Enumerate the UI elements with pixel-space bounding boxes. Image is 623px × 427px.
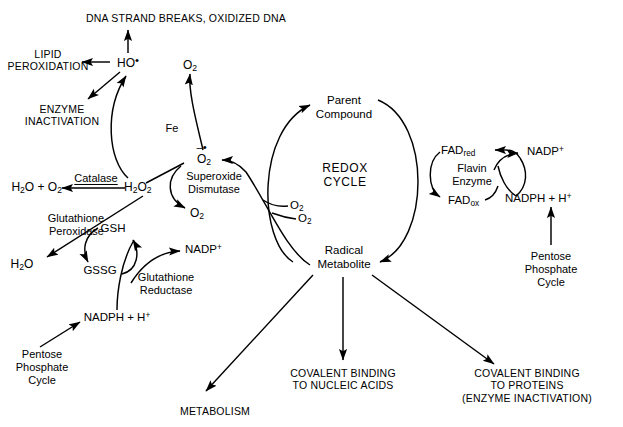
oxygen-radical-branch-formula: O: [298, 212, 307, 224]
dna-strand-breaks-label: DNA STRAND BREAKS, OXIDIZED DNA: [86, 12, 286, 24]
pentose-left-line2: Phosphate: [16, 361, 69, 373]
arrow-pentose-left-to-nadph: [40, 322, 80, 347]
fad-ox-text: FAD: [448, 194, 470, 206]
arrow-gssg-to-gsh: [122, 240, 137, 274]
hydrogen-peroxide-label: H2O2: [124, 180, 152, 196]
nadph-right-text: NADPH + H: [505, 192, 567, 204]
glutathione-peroxidase-line1: Glutathione: [48, 212, 104, 224]
oxygen-radical-branch-label: O2: [298, 212, 312, 227]
redox-cycle-line1: REDOX: [322, 161, 368, 175]
arrow-superoxide-to-oxygen: [190, 74, 203, 150]
glutathione-peroxidase-line2: Peroxidase: [49, 225, 104, 237]
arrow-peroxide-to-superoxide: [146, 163, 184, 183]
lipid-peroxidation-line2: PEROXIDATION: [8, 60, 89, 72]
nadph-h-left-label: NADPH + H+: [84, 311, 151, 325]
enzyme-inactivation-line1: ENZYME: [40, 103, 85, 115]
line-oxygen-branch-cycle: [263, 200, 288, 206]
fad-red-label: FADred: [441, 144, 475, 159]
oxygen-top-formula: O: [183, 58, 192, 72]
superoxide-species-label: –•O2: [197, 152, 211, 168]
catalase-label: Catalase: [74, 172, 117, 185]
gssg-label: GSSG: [83, 264, 116, 278]
covalent-binding-proteins-label: COVALENT BINDING TO PROTEINS (ENZYME INA…: [462, 367, 592, 404]
covalent-protein-line1: COVALENT BINDING: [474, 367, 580, 379]
parent-compound-line1: Parent: [327, 94, 361, 106]
parent-compound-line2: Compound: [316, 108, 372, 120]
radical-metabolite-label: Radical Metabolite: [317, 244, 370, 271]
water-label: H2O: [11, 257, 34, 273]
lipid-peroxidation-label: LIPID PEROXIDATION: [8, 48, 89, 73]
superoxide-dismutase-label: Superoxide Dismutase: [186, 170, 242, 196]
superoxide-dismutase-line2: Dismutase: [188, 183, 240, 195]
nadp-left-text: NADP: [185, 243, 217, 255]
redox-cycle-diagram: DNA STRAND BREAKS, OXIDIZED DNA LIPID PE…: [0, 0, 623, 427]
arrow-to-fadox: [430, 152, 440, 197]
fad-ox-label: FADox: [448, 194, 479, 209]
superoxide-charge-icon: –•: [196, 141, 206, 154]
arrow-peroxide-to-hydroxyl: [111, 76, 128, 178]
metabolism-label: METABOLISM: [180, 405, 250, 417]
pentose-phosphate-right-label: Pentose Phosphate Cycle: [525, 250, 578, 289]
oxygen-top-subscript: 2: [192, 63, 197, 73]
nadp-plus-right-label: NADP+: [527, 145, 564, 159]
radical-dot-icon: •: [135, 54, 139, 66]
pentose-phosphate-left-label: Pentose Phosphate Cycle: [16, 348, 69, 387]
redox-cycle-center-label: REDOX CYCLE: [322, 161, 368, 189]
radical-metabolite-line2: Metabolite: [317, 258, 370, 270]
superoxide-dismutase-line1: Superoxide: [186, 170, 242, 182]
nadp-plus-left-label: NADP+: [185, 243, 222, 257]
pentose-right-line2: Phosphate: [525, 263, 578, 275]
nadph-left-text: NADPH + H: [84, 311, 146, 323]
enzyme-inactivation-label: ENZYME INACTIVATION: [25, 103, 99, 128]
covalent-protein-line3: (ENZYME INACTIVATION): [462, 392, 592, 404]
glutathione-reductase-label: Glutathione Reductase: [138, 271, 194, 297]
redox-cycle-line2: CYCLE: [323, 175, 366, 189]
radical-metabolite-line1: Radical: [325, 244, 363, 256]
pentose-left-line3: Cycle: [28, 374, 56, 386]
glutathione-reductase-line1: Glutathione: [138, 271, 194, 283]
hydroxyl-radical-formula: HO: [117, 56, 135, 70]
glutathione-peroxidase-label: Glutathione Peroxidase: [48, 212, 104, 238]
covalent-protein-line2: TO PROTEINS: [490, 379, 563, 391]
covalent-nucleic-line1: COVALENT BINDING: [290, 367, 396, 379]
pentose-left-line1: Pentose: [22, 348, 62, 360]
oxygen-top-label: O2: [183, 58, 197, 74]
water-oxygen-label: H2O + O2: [11, 180, 62, 196]
oxygen-sod-label: O2: [190, 206, 204, 222]
hydroxyl-radical-label: HO•: [117, 54, 139, 70]
glutathione-reductase-line2: Reductase: [140, 284, 193, 296]
oxygen-cycle-formula: O: [290, 199, 299, 211]
line-reductase-stem: [117, 240, 134, 310]
parent-compound-label: Parent Compound: [316, 94, 372, 121]
fad-red-text: FAD: [441, 144, 463, 156]
arrow-radical-to-proteins: [372, 275, 494, 364]
covalent-binding-nucleic-acids-label: COVALENT BINDING TO NUCLEIC ACIDS: [290, 367, 396, 392]
fad-ox-subscript: ox: [470, 199, 479, 208]
arrow-hydroxyl-to-enzyme-inactivation: [88, 72, 120, 99]
arc-cycle-left-up: [268, 105, 310, 262]
nadph-h-right-label: NADPH + H+: [505, 192, 572, 206]
enzyme-inactivation-line2: INACTIVATION: [25, 115, 99, 127]
flavin-enzyme-line1: Flavin: [457, 162, 486, 174]
pentose-right-line3: Cycle: [537, 276, 565, 288]
arrow-to-fadred: [516, 158, 526, 196]
line-fadred-hook: [506, 150, 520, 158]
line-fadox-hook: [485, 186, 498, 200]
iron-label: Fe: [166, 122, 179, 135]
nadp-right-text: NADP: [527, 145, 559, 157]
pentose-right-line1: Pentose: [531, 250, 571, 262]
lipid-peroxidation-line1: LIPID: [34, 48, 61, 60]
flavin-enzyme-line2: Enzyme: [452, 175, 492, 187]
fad-red-subscript: red: [463, 149, 475, 158]
arrow-cross-to-nadp-right: [494, 153, 518, 170]
gsh-label: GSH: [101, 222, 126, 236]
flavin-enzyme-label: Flavin Enzyme: [452, 162, 492, 188]
arc-cycle-right-down: [378, 100, 418, 262]
arrow-sod-to-oxygen: [170, 166, 185, 208]
covalent-nucleic-line2: TO NUCLEIC ACIDS: [292, 379, 393, 391]
